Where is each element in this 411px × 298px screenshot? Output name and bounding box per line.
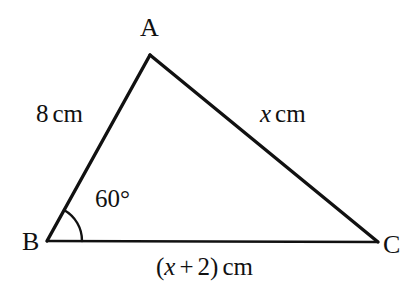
- side-ac-unit: cm: [275, 100, 306, 127]
- side-label-ab: 8cm: [36, 101, 83, 126]
- triangle-side-bc: [47, 241, 378, 242]
- vertex-label-c: C: [383, 232, 400, 258]
- vertex-label-a: A: [140, 15, 159, 41]
- side-ac-value: x: [260, 100, 271, 127]
- triangle-side-ab: [47, 55, 150, 241]
- side-bc-operator: +: [179, 253, 193, 280]
- angle-label-b: 60°: [95, 186, 130, 211]
- side-label-bc: (x+2)cm: [156, 254, 253, 279]
- side-bc-unit: cm: [222, 253, 253, 280]
- triangle-side-ac: [150, 55, 378, 242]
- side-bc-const: 2: [198, 253, 211, 280]
- side-ab-unit: cm: [53, 100, 84, 127]
- side-bc-var: x: [164, 253, 175, 280]
- side-label-ac: xcm: [260, 101, 306, 126]
- angle-arc-b: [64, 210, 82, 241]
- geometry-figure: A B C 8cm xcm (x+2)cm 60°: [0, 0, 411, 298]
- vertex-label-b: B: [22, 229, 39, 255]
- side-bc-paren-close: ): [210, 253, 218, 280]
- side-ab-value: 8: [36, 100, 49, 127]
